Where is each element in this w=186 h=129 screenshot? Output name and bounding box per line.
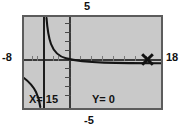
window-ymin-label: -5 <box>84 115 94 126</box>
calculator-screen: X= 15 Y= 0 5 -5 -8 18 <box>0 0 186 129</box>
cursor-x-readout: X= 15 <box>29 94 58 105</box>
x-cross-cursor-icon[interactable] <box>141 53 154 66</box>
window-xmin-label: -8 <box>2 52 12 63</box>
window-ymax-label: 5 <box>84 1 90 12</box>
window-xmax-label: 18 <box>166 52 178 63</box>
cursor-y-readout: Y= 0 <box>92 94 115 105</box>
graph-plot-area[interactable]: X= 15 Y= 0 <box>22 15 163 110</box>
